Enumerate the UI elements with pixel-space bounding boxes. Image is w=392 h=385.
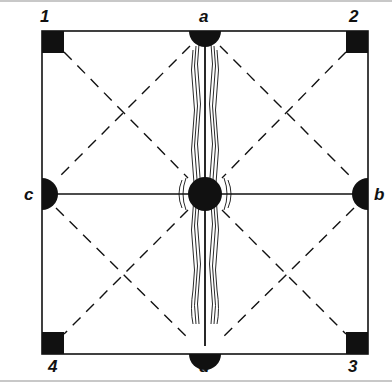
label-4: 4 xyxy=(48,358,57,375)
dashed-2-center xyxy=(222,52,346,178)
label-1: 1 xyxy=(40,8,49,25)
center-node xyxy=(188,177,222,211)
label-d: d xyxy=(199,358,209,375)
corner-square-1 xyxy=(42,31,64,53)
dashed-a-c xyxy=(56,46,190,180)
label-b: b xyxy=(374,186,384,203)
dashed-center-4 xyxy=(64,210,188,334)
label-c: c xyxy=(24,186,33,203)
corner-square-3 xyxy=(346,332,368,354)
node-b-semicircle xyxy=(352,178,368,210)
dashed-a-b xyxy=(220,46,354,180)
node-a-semicircle xyxy=(189,31,221,47)
dashed-1-center xyxy=(64,52,188,178)
dashed-center-3 xyxy=(222,210,346,334)
label-2: 2 xyxy=(349,8,358,25)
node-c-semicircle xyxy=(42,178,58,210)
label-3: 3 xyxy=(348,358,357,375)
label-a: a xyxy=(199,8,208,25)
diagram-canvas xyxy=(0,0,392,385)
corner-square-2 xyxy=(346,31,368,53)
corner-square-4 xyxy=(42,332,64,354)
